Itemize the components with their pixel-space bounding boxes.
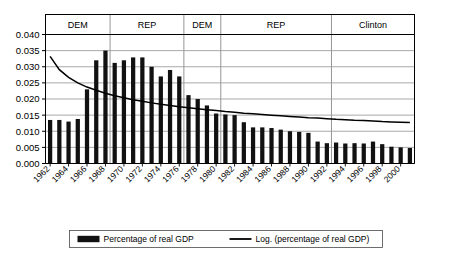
bar: [140, 57, 144, 163]
bar: [177, 76, 181, 163]
era-label: REP: [267, 20, 286, 30]
bar: [325, 143, 329, 163]
bar: [113, 63, 117, 164]
bar: [103, 51, 107, 164]
y-axis-tick-label: 0.010: [16, 126, 40, 137]
bar: [168, 70, 172, 164]
bar: [186, 95, 190, 163]
bar: [205, 105, 209, 163]
y-axis-tick-label: 0.020: [16, 93, 40, 104]
bar: [306, 133, 310, 164]
bar: [149, 67, 153, 164]
bar: [159, 76, 163, 163]
bar: [399, 147, 403, 163]
bar: [343, 144, 347, 164]
bar: [297, 132, 301, 164]
y-axis-tick-label: 0.005: [16, 142, 40, 153]
bar: [279, 130, 283, 164]
bar: [334, 143, 338, 164]
y-axis-tick-labels: 0.0000.0050.0100.0150.0200.0250.0300.035…: [16, 29, 40, 169]
bar: [380, 144, 384, 163]
era-label: REP: [138, 20, 157, 30]
era-label: DEM: [192, 20, 212, 30]
bar: [408, 148, 412, 163]
bar: [57, 120, 61, 164]
bar: [288, 131, 292, 163]
bar: [131, 57, 135, 163]
bar: [232, 115, 236, 163]
bar: [214, 114, 218, 164]
bar: [76, 119, 80, 164]
bar: [389, 147, 393, 164]
y-axis-tick-label: 0.025: [16, 77, 40, 88]
bar: [223, 114, 227, 163]
bar: [316, 142, 320, 164]
era-label: DEM: [68, 20, 88, 30]
chart-container: DEMREPDEMREPClinton 0.0000.0050.0100.015…: [0, 0, 452, 257]
bar: [352, 143, 356, 163]
y-axis-tick-label: 0.040: [16, 29, 40, 40]
bar: [260, 127, 264, 163]
gdp-percentage-chart: DEMREPDEMREPClinton 0.0000.0050.0100.015…: [0, 0, 452, 257]
bar: [242, 122, 246, 163]
bar: [94, 60, 98, 163]
bar: [48, 120, 52, 164]
y-axis-tick-label: 0.035: [16, 45, 40, 56]
y-axis-tick-label: 0.000: [16, 158, 40, 169]
y-axis-tick-label: 0.015: [16, 110, 40, 121]
bar: [251, 127, 255, 163]
bar: [85, 89, 89, 163]
legend-label-bar: Percentage of real GDP: [104, 234, 195, 244]
bar: [371, 142, 375, 164]
bar: [269, 128, 273, 163]
bar: [122, 60, 126, 163]
bar: [66, 122, 70, 164]
legend-swatch-bar: [78, 236, 100, 242]
y-axis-tick-label: 0.030: [16, 61, 40, 72]
era-label: Clinton: [359, 20, 387, 30]
bar: [362, 144, 366, 164]
legend-label-line: Log. (percentage of real GDP): [256, 234, 370, 244]
chart-legend: Percentage of real GDPLog. (percentage o…: [70, 231, 383, 248]
